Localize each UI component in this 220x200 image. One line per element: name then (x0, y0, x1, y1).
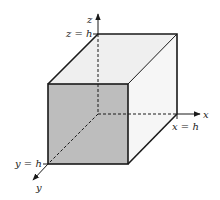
front-face (48, 84, 128, 164)
z-axis-label: z (86, 14, 93, 25)
cube-diagram: z z = h x x = h y = h y (0, 0, 220, 200)
y-axis-label: y (35, 182, 42, 193)
z-top-label: z = h (65, 28, 92, 39)
y-end-label: y = h (14, 158, 42, 169)
x-end-label: x = h (172, 121, 199, 132)
x-axis-label: x (203, 109, 209, 120)
